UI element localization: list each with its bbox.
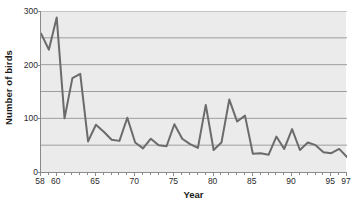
x-tick-label: 95 (326, 177, 335, 186)
y-tick-label: 300 (16, 7, 38, 16)
y-axis-tick-labels: 0100200300 (10, 0, 38, 175)
x-tick-label: 97 (341, 177, 350, 186)
x-axis-tick-mark (64, 172, 65, 175)
x-axis-tick-mark (111, 172, 112, 175)
plot-area (40, 11, 346, 172)
x-tick-label: 58 (35, 177, 44, 186)
x-axis-tick-mark (260, 172, 261, 175)
x-tick-label: 75 (169, 177, 178, 186)
x-axis-tick-mark (315, 172, 316, 175)
x-axis-tick-mark (118, 172, 119, 175)
data-series-group (41, 17, 347, 157)
data-line (41, 17, 347, 157)
x-axis-tick-mark (48, 172, 49, 175)
x-axis-tick-mark (205, 172, 206, 175)
x-axis-tick-mark (150, 172, 151, 175)
x-axis-tick-mark (228, 172, 229, 175)
x-axis-tick-mark (71, 172, 72, 175)
x-axis-title: Year (40, 189, 347, 200)
x-axis-tick-mark (322, 172, 323, 175)
x-axis-tick-mark (103, 172, 104, 175)
y-tick-label: 100 (16, 114, 38, 123)
x-axis-tick-mark (268, 172, 269, 175)
x-axis-tick-mark (79, 172, 80, 175)
x-axis-tick-mark (166, 172, 167, 175)
y-tick-label: 200 (16, 61, 38, 70)
x-axis-tick-mark (189, 172, 190, 175)
x-axis-tick-mark (307, 172, 308, 175)
x-axis-tick-mark (220, 172, 221, 175)
x-axis-tick-mark (244, 172, 245, 175)
x-tick-label: 65 (90, 177, 99, 186)
x-axis-tick-mark (283, 172, 284, 175)
x-axis-tick-mark (142, 172, 143, 175)
x-axis-tick-mark (275, 172, 276, 175)
x-axis-tick-mark (126, 172, 127, 175)
x-tick-label: 85 (247, 177, 256, 186)
x-tick-label: 80 (208, 177, 217, 186)
x-axis-tick-mark (158, 172, 159, 175)
x-axis-tick-mark (299, 172, 300, 175)
x-tick-label: 90 (286, 177, 295, 186)
x-tick-label: 60 (51, 177, 60, 186)
plot-svg (41, 11, 347, 172)
x-axis-tick-mark (236, 172, 237, 175)
bird-count-line-chart: Number of birds 0100200300 5860657075808… (0, 0, 357, 203)
x-axis-tick-labels: 58606570758085909597 (40, 177, 347, 189)
x-axis-tick-mark (181, 172, 182, 175)
x-axis-tick-mark (338, 172, 339, 175)
x-axis-tick-mark (87, 172, 88, 175)
x-axis-tick-mark (197, 172, 198, 175)
x-tick-label: 70 (129, 177, 138, 186)
